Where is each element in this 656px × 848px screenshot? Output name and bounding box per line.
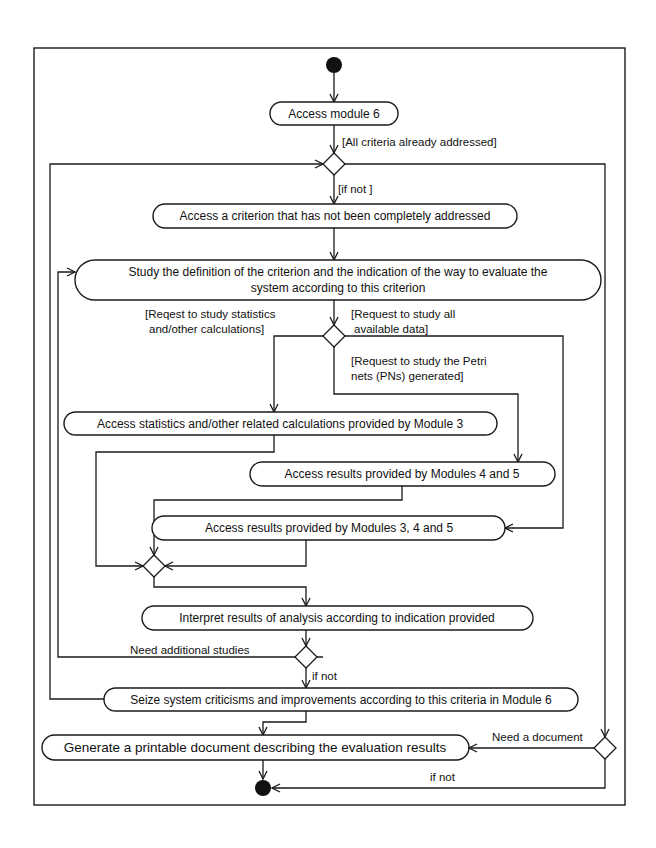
- guard-petri-nets-line2: nets (PNs) generated]: [351, 370, 464, 382]
- activity-label: Access module 6: [288, 107, 380, 121]
- activity-label-line1: Study the definition of the criterion an…: [129, 265, 548, 279]
- guard-if-not: [if not ]: [338, 183, 373, 195]
- activity-diagram: Access module 6 [All criteria already ad…: [0, 0, 656, 848]
- guard-need-additional-studies: Need additional studies: [130, 644, 250, 656]
- activity-label: Seize system criticisms and improvements…: [130, 693, 552, 707]
- activity-label-line2: system according to this criterion: [251, 281, 426, 295]
- final-node: [255, 780, 271, 796]
- guard-need-document: Need a document: [492, 731, 584, 743]
- guard-petri-nets-line1: [Request to study the Petri: [351, 355, 487, 367]
- guard-all-criteria-addressed: [All criteria already addressed]: [342, 136, 497, 148]
- activity-interpret-results: Interpret results of analysis according …: [142, 606, 533, 630]
- activity-access-statistics: Access statistics and/other related calc…: [64, 412, 497, 435]
- decision-study-type-diamond: [323, 325, 345, 347]
- activity-label: Access results provided by Modules 3, 4 …: [205, 521, 453, 535]
- activity-access-criterion: Access a criterion that has not been com…: [153, 204, 517, 228]
- activity-label: Interpret results of analysis according …: [179, 611, 495, 625]
- guard-if-not-interpret: if not: [312, 670, 338, 682]
- decision-need-document-diamond: [594, 737, 616, 759]
- guard-statistics-line2: and/other calculations]: [149, 323, 264, 335]
- activity-access-modules-3-4-5: Access results provided by Modules 3, 4 …: [152, 516, 505, 540]
- guard-if-not-document: if not: [430, 771, 456, 783]
- guard-statistics-line1: [Reqest to study statistics: [145, 308, 276, 320]
- activity-label: Access a criterion that has not been com…: [180, 209, 491, 223]
- activity-seize-criticisms: Seize system criticisms and improvements…: [104, 688, 578, 711]
- decision-additional-studies-diamond: [295, 646, 317, 668]
- guard-all-data-line1: [Request to study all: [351, 308, 455, 320]
- initial-node: [326, 57, 342, 73]
- activity-label: Access statistics and/other related calc…: [97, 417, 464, 431]
- guard-all-data-line2: available data]: [354, 323, 428, 335]
- activity-study-criterion: Study the definition of the criterion an…: [75, 260, 601, 300]
- merge-diamond: [143, 555, 165, 577]
- activity-access-module-6: Access module 6: [270, 102, 398, 125]
- activity-label: Generate a printable document describing…: [64, 740, 447, 755]
- activity-label: Access results provided by Modules 4 and…: [285, 467, 520, 481]
- activity-access-modules-4-5: Access results provided by Modules 4 and…: [250, 462, 555, 486]
- activity-generate-document: Generate a printable document describing…: [42, 735, 469, 760]
- decision-criteria-diamond: [323, 153, 345, 175]
